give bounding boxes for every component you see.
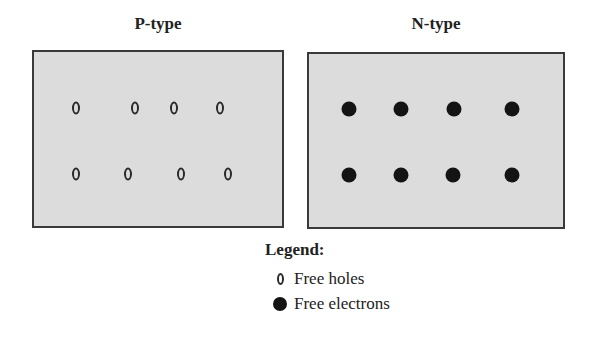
legend: Legend: Free holes Free electrons [265,240,390,316]
hole-icon [72,168,80,181]
p-type-panel [32,50,284,228]
electron-icon [447,102,462,117]
legend-label-holes: Free holes [294,269,364,289]
hole-icon [177,168,185,181]
legend-item-electrons: Free electrons [272,291,390,316]
p-type-title: P-type [32,14,284,34]
legend-label-electrons: Free electrons [294,294,390,314]
electron-icon [505,102,520,117]
hole-icon [216,102,224,115]
electron-icon [394,168,409,183]
hole-icon [72,102,80,115]
hole-icon [124,168,132,181]
electron-icon [446,168,461,183]
n-type-title: N-type [307,14,565,34]
hole-icon [131,102,139,115]
electron-icon [505,168,520,183]
electron-icon [342,168,357,183]
hole-icon [224,168,232,181]
hole-symbol-icon [272,273,288,285]
hole-icon [170,102,178,115]
n-type-panel [307,52,565,229]
electron-symbol-icon [272,297,288,311]
legend-item-holes: Free holes [272,266,390,291]
electron-icon [342,102,357,117]
electron-icon [394,102,409,117]
legend-title: Legend: [265,240,390,260]
